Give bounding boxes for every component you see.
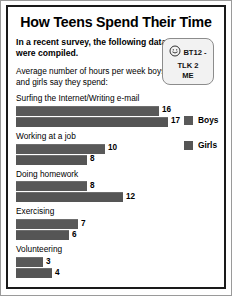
bar-value-boys: 7 [81, 220, 86, 228]
bar-girls [16, 117, 168, 127]
badge-line-1: BT12 - [183, 48, 206, 57]
survey-lede: In a recent survey, the following data w… [16, 37, 168, 60]
legend-label-girls: Girls [198, 141, 217, 149]
bar-value-boys: 16 [162, 106, 171, 114]
bar-row-boys: 16 [16, 106, 216, 116]
poster-content: How Teens Spend Their Time In a recent s… [8, 7, 224, 287]
category-label: Doing homework [16, 170, 216, 180]
bar-row-girls: 6 [16, 230, 216, 240]
bar-girls [16, 192, 123, 202]
bar-row-boys: 7 [16, 219, 216, 229]
chart-group-exercising: Exercising 7 6 [16, 207, 216, 240]
legend-item-girls: Girls [184, 141, 218, 150]
sticker-badge: BT12 - TLK 2 ME [162, 38, 214, 85]
bar-value-girls: 17 [171, 117, 180, 125]
page-title: How Teens Spend Their Time [16, 15, 216, 31]
badge-line-3: ME [182, 71, 193, 80]
poster-container: How Teens Spend Their Time In a recent s… [0, 0, 232, 296]
chart-legend: Boys Girls [184, 116, 218, 166]
bar-value-boys: 8 [90, 182, 95, 190]
bar-value-girls: 4 [55, 269, 60, 277]
intro-row: In a recent survey, the following data w… [16, 37, 216, 89]
bar-row-girls: 4 [16, 268, 216, 278]
bar-boys [16, 219, 78, 229]
chart-group-homework: Doing homework 8 12 [16, 170, 216, 203]
legend-swatch-boys-icon [184, 116, 193, 125]
bar-girls [16, 268, 52, 278]
bar-value-boys: 3 [46, 258, 51, 266]
category-label: Exercising [16, 207, 216, 217]
bar-value-girls: 12 [126, 193, 135, 201]
badge-line-2: TLK 2 [177, 61, 198, 70]
legend-label-boys: Boys [198, 116, 218, 124]
bar-value-boys: 10 [108, 144, 117, 152]
bar-row-boys: 3 [16, 257, 216, 267]
smiley-face-icon [169, 43, 181, 61]
bar-chart: Surfing the Internet/Writing e-mail 16 1… [16, 94, 216, 279]
bar-row-boys: 8 [16, 181, 216, 191]
bar-boys [16, 181, 87, 191]
legend-item-boys: Boys [184, 116, 218, 125]
legend-swatch-girls-icon [184, 141, 193, 150]
bar-boys [16, 257, 43, 267]
survey-subtext: Average number of hours per week boys an… [16, 66, 168, 88]
bar-girls [16, 230, 69, 240]
category-label: Surfing the Internet/Writing e-mail [16, 94, 216, 104]
chart-group-volunteering: Volunteering 3 4 [16, 245, 216, 278]
bar-boys [16, 144, 105, 154]
bar-value-girls: 6 [72, 231, 77, 239]
bar-value-girls: 8 [90, 155, 95, 163]
bar-row-girls: 12 [16, 192, 216, 202]
poster-inner-frame: How Teens Spend Their Time In a recent s… [6, 5, 226, 289]
intro-text-block: In a recent survey, the following data w… [16, 37, 168, 89]
bar-boys [16, 106, 159, 116]
badge-first-line: BT12 - [169, 43, 206, 61]
category-label: Volunteering [16, 245, 216, 255]
bar-girls [16, 155, 87, 165]
